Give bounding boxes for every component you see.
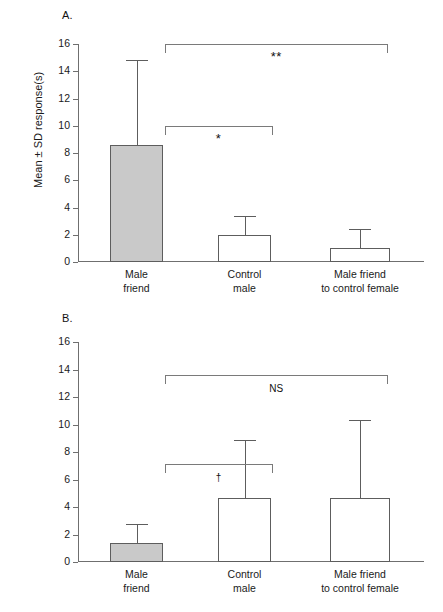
- y-tick-label: 2: [64, 228, 70, 241]
- significance-label-b-2: †: [216, 472, 222, 483]
- bar-b-1: [110, 543, 163, 562]
- y-tick-mark: [73, 262, 78, 263]
- bar-a-1: [110, 145, 163, 262]
- y-tick-mark: [73, 126, 78, 127]
- category-label-line: Male friend: [321, 568, 399, 582]
- bar-b-3: [330, 498, 390, 562]
- category-label-line: friend: [123, 282, 149, 296]
- category-label-line: Male: [123, 268, 149, 282]
- y-tick-label: 8: [64, 146, 70, 159]
- category-label-b-1: Malefriend: [123, 568, 149, 595]
- category-label-line: Control: [228, 268, 262, 282]
- panel-a-letter: A.: [62, 9, 73, 21]
- y-tick-label: 16: [58, 37, 70, 50]
- y-tick-label: 0: [64, 255, 70, 268]
- significance-label-b-1: NS: [269, 383, 283, 394]
- y-tick-label: 12: [58, 92, 70, 105]
- figure-panel-group: Mean ± SD response(s) A. 0246810121416Ma…: [0, 0, 443, 612]
- bar-b-2: [218, 498, 271, 562]
- error-bar-stem-a-1: [137, 60, 138, 144]
- category-label-line: to control female: [321, 282, 399, 296]
- panel-b: B. 0246810121416MalefriendControlmaleMal…: [0, 306, 443, 612]
- panel-a: A. 0246810121416MalefriendControlmaleMal…: [0, 0, 443, 306]
- error-bar-cap-b-1: [126, 524, 148, 525]
- category-label-a-1: Malefriend: [123, 268, 149, 295]
- y-tick-mark: [73, 99, 78, 100]
- error-bar-stem-b-3: [360, 420, 361, 498]
- y-tick-label: 6: [64, 473, 70, 486]
- error-bar-cap-a-2: [234, 216, 256, 217]
- category-label-line: Male: [123, 568, 149, 582]
- panel-b-plot-area: 0246810121416MalefriendControlmaleMale f…: [78, 342, 424, 562]
- error-bar-cap-b-2: [234, 440, 256, 441]
- y-tick-mark: [73, 397, 78, 398]
- panel-a-plot-area: 0246810121416MalefriendControlmaleMale f…: [78, 44, 424, 262]
- y-tick-mark: [73, 208, 78, 209]
- bar-a-2: [218, 235, 271, 262]
- y-tick-label: 10: [58, 119, 70, 132]
- category-label-line: to control female: [321, 582, 399, 596]
- y-tick-label: 10: [58, 418, 70, 431]
- category-label-line: friend: [123, 582, 149, 596]
- y-tick-label: 2: [64, 528, 70, 541]
- significance-label-a-1: **: [271, 52, 282, 62]
- y-tick-mark: [73, 480, 78, 481]
- y-tick-label: 4: [64, 500, 70, 513]
- category-label-line: male: [228, 582, 262, 596]
- category-label-b-3: Male friendto control female: [321, 568, 399, 595]
- bar-a-3: [330, 248, 390, 262]
- category-label-line: Male friend: [321, 268, 399, 282]
- y-tick-label: 14: [58, 64, 70, 77]
- y-tick-mark: [73, 153, 78, 154]
- y-tick-mark: [73, 180, 78, 181]
- y-tick-mark: [73, 235, 78, 236]
- y-tick-label: 14: [58, 363, 70, 376]
- y-tick-mark: [73, 370, 78, 371]
- error-bar-cap-b-3: [349, 420, 371, 421]
- y-tick-mark: [73, 562, 78, 563]
- error-bar-stem-b-1: [137, 524, 138, 543]
- y-tick-mark: [73, 452, 78, 453]
- y-tick-label: 4: [64, 201, 70, 214]
- y-tick-mark: [73, 44, 78, 45]
- y-tick-label: 6: [64, 173, 70, 186]
- category-label-a-3: Male friendto control female: [321, 268, 399, 295]
- y-tick-label: 0: [64, 555, 70, 568]
- category-label-b-2: Controlmale: [228, 568, 262, 595]
- panel-a-y-axis: [78, 44, 79, 262]
- y-tick-label: 12: [58, 390, 70, 403]
- category-label-line: male: [228, 282, 262, 296]
- y-tick-mark: [73, 425, 78, 426]
- error-bar-stem-a-3: [360, 229, 361, 248]
- y-tick-mark: [73, 535, 78, 536]
- y-tick-label: 8: [64, 445, 70, 458]
- error-bar-stem-a-2: [245, 216, 246, 236]
- panel-b-y-axis: [78, 342, 79, 562]
- error-bar-cap-a-1: [126, 60, 148, 61]
- y-tick-mark: [73, 71, 78, 72]
- error-bar-cap-a-3: [349, 229, 371, 230]
- category-label-a-2: Controlmale: [228, 268, 262, 295]
- y-tick-mark: [73, 507, 78, 508]
- panel-b-letter: B.: [62, 312, 73, 324]
- y-tick-label: 16: [58, 335, 70, 348]
- y-tick-mark: [73, 342, 78, 343]
- significance-label-a-2: *: [216, 134, 222, 144]
- category-label-line: Control: [228, 568, 262, 582]
